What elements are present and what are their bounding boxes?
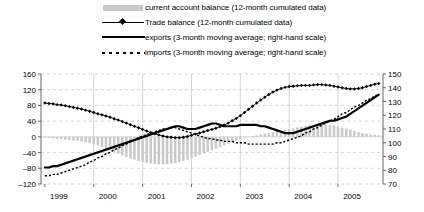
bar: [243, 137, 246, 138]
marker: [316, 83, 319, 86]
axis-label-left: 160: [23, 70, 37, 79]
bar: [166, 137, 169, 164]
dotted-line-icon: [100, 47, 145, 59]
axis-label-left: 40: [27, 117, 36, 126]
marker: [304, 84, 307, 87]
legend-label: imports (3-month moving average; right-h…: [145, 48, 326, 57]
bar: [76, 137, 79, 141]
bar: [329, 125, 332, 137]
chart-page: current account balance (12-month cumula…: [0, 0, 424, 212]
marker: [206, 129, 209, 132]
marker: [292, 84, 295, 87]
marker: [59, 103, 62, 106]
bar: [227, 137, 230, 144]
bar: [194, 137, 197, 157]
bar: [97, 137, 100, 146]
marker: [100, 113, 103, 116]
marker: [129, 123, 132, 126]
marker: [190, 134, 193, 137]
marker: [308, 84, 311, 87]
marker: [108, 116, 111, 119]
axis-label-left: 120: [23, 86, 37, 95]
marker: [47, 102, 50, 105]
bar: [276, 131, 279, 137]
bar: [215, 137, 218, 149]
bar: [158, 137, 161, 165]
bar: [162, 137, 165, 165]
marker: [365, 85, 368, 88]
axis-label-right: 150: [388, 70, 402, 79]
bar: [255, 135, 258, 137]
bar: [84, 137, 87, 143]
marker: [133, 125, 136, 128]
marker: [80, 107, 83, 110]
bar: [56, 137, 59, 139]
axis-label-right: 90: [388, 153, 397, 162]
axis-label-x: 2003: [245, 192, 263, 201]
axis-label-left: –80: [23, 164, 37, 173]
axis-label-right: 140: [388, 84, 402, 93]
axis-label-right: 70: [388, 180, 397, 189]
marker: [88, 110, 91, 113]
marker: [202, 130, 205, 133]
bar: [369, 135, 372, 137]
marker: [141, 128, 144, 131]
axis-label-x: 2002: [197, 192, 215, 201]
marker: [328, 84, 331, 87]
bar: [170, 137, 173, 164]
axis-label-left: –120: [18, 180, 36, 189]
marker: [112, 117, 115, 120]
bar: [137, 137, 140, 161]
marker: [349, 87, 352, 90]
marker: [300, 84, 303, 87]
marker: [121, 120, 124, 123]
marker: [198, 131, 201, 134]
legend-item-current-account-balance: current account balance (12-month cumula…: [100, 1, 326, 14]
marker: [72, 106, 75, 109]
legend-label: current account balance (12-month cumula…: [145, 3, 326, 12]
bar: [88, 137, 91, 143]
bar: [264, 134, 267, 137]
marker: [145, 129, 148, 132]
marker: [377, 82, 380, 85]
marker: [373, 83, 376, 86]
marker: [210, 128, 213, 131]
bar: [202, 137, 205, 154]
bar: [272, 132, 275, 137]
bar: [325, 125, 328, 137]
marker: [340, 86, 343, 89]
bar: [219, 137, 222, 147]
bar: [337, 126, 340, 137]
marker: [312, 83, 315, 86]
marker: [43, 101, 46, 104]
axis-label-left: 0: [32, 133, 37, 142]
bar: [235, 137, 238, 141]
bar: [125, 137, 128, 157]
bar: [121, 137, 124, 155]
bar: [105, 137, 108, 149]
bar: [239, 137, 242, 139]
bar: [68, 137, 71, 140]
axis-label-right: 80: [388, 166, 397, 175]
thin-line-diamond-icon: [100, 17, 145, 29]
marker: [137, 126, 140, 129]
bar: [198, 137, 201, 155]
legend-label: exports (3-month moving average; right-h…: [145, 33, 326, 42]
bar: [190, 137, 193, 158]
marker: [76, 106, 79, 109]
bar: [361, 133, 364, 137]
marker: [84, 108, 87, 111]
marker: [287, 85, 290, 88]
marker: [336, 85, 339, 88]
bar: [304, 126, 307, 137]
axis-label-left: –40: [23, 149, 37, 158]
bar: [48, 137, 51, 138]
bar: [247, 137, 250, 138]
marker: [296, 84, 299, 87]
marker: [214, 127, 217, 130]
bar: [333, 125, 336, 136]
bar: [145, 137, 148, 163]
axis-label-left: 80: [27, 101, 36, 110]
bar: [186, 137, 189, 160]
legend-item-imports: imports (3-month moving average; right-h…: [100, 46, 326, 59]
